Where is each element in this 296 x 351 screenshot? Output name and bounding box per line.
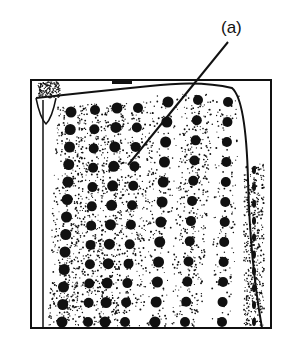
label-a: (a)	[221, 18, 242, 38]
stippling	[38, 81, 265, 327]
diagram-figure	[0, 0, 296, 351]
leader-line	[128, 42, 228, 165]
